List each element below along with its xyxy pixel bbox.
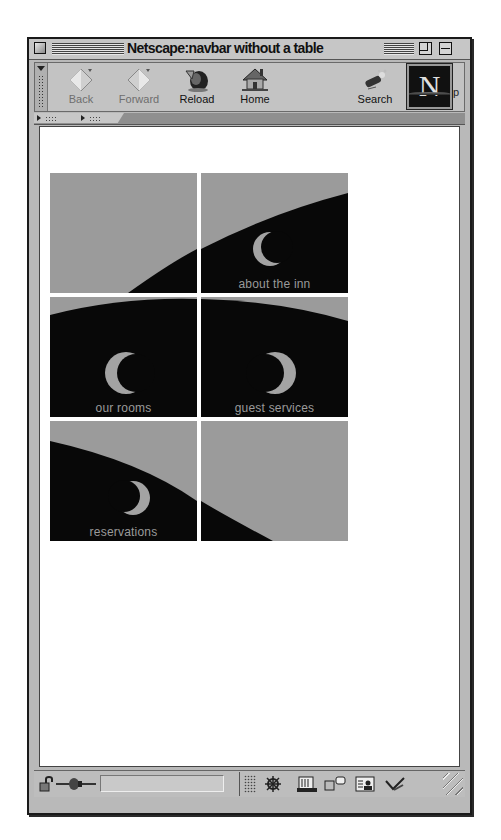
grip-dots-icon xyxy=(45,116,57,121)
grip-dots-icon xyxy=(89,116,101,121)
navbar-link-about-the-inn[interactable]: about the inn xyxy=(201,173,348,293)
navbar-link-guest-services[interactable]: guest services xyxy=(201,297,348,417)
resize-grow-box[interactable] xyxy=(443,773,463,795)
back-label: Back xyxy=(53,93,109,105)
night-sky-slice xyxy=(50,421,197,541)
night-sky-slice xyxy=(201,421,348,541)
disclosure-triangle-icon xyxy=(81,115,85,121)
close-box-button[interactable] xyxy=(34,42,46,54)
guest-services-label: guest services xyxy=(201,401,348,415)
back-button[interactable]: Back xyxy=(53,65,109,109)
address-book-icon[interactable] xyxy=(354,775,376,793)
forward-label: Forward xyxy=(111,93,167,105)
home-button[interactable]: Home xyxy=(227,65,283,109)
connection-plug-icon xyxy=(56,778,96,790)
title-bar-stripes xyxy=(52,43,124,55)
navbar-link-our-rooms[interactable]: our rooms xyxy=(50,297,197,417)
status-divider xyxy=(239,772,240,796)
crescent-moon-icon xyxy=(246,352,296,394)
navbar-tile-top-left xyxy=(50,173,197,293)
zoom-box-button[interactable] xyxy=(419,42,432,55)
crescent-moon-icon xyxy=(105,352,155,394)
search-flashlight-icon xyxy=(360,67,390,93)
night-sky-slice xyxy=(50,173,197,293)
navbar-tile-bottom-right xyxy=(201,421,348,541)
navigation-toolbar: Back Forward Reload xyxy=(34,62,465,112)
component-bar-grip-icon[interactable] xyxy=(244,775,256,793)
night-sky-slice xyxy=(201,173,348,293)
night-sky-slice xyxy=(201,297,348,417)
status-bar xyxy=(34,770,465,797)
search-button[interactable]: Search xyxy=(347,65,403,109)
image-navbar: about the inn our rooms xyxy=(50,173,348,541)
collapse-box-button[interactable] xyxy=(439,42,452,55)
forward-button[interactable]: Forward xyxy=(111,65,167,109)
forward-arrow-icon xyxy=(124,67,154,93)
toolbar-collapse-grip[interactable] xyxy=(35,63,48,111)
navigator-icon[interactable] xyxy=(262,775,284,793)
collapsed-toolbar-tab[interactable] xyxy=(72,113,124,123)
grip-dots-icon xyxy=(38,75,44,107)
security-lock-icon[interactable] xyxy=(39,776,55,792)
netscape-n-logo-icon: N xyxy=(409,69,450,103)
reload-button[interactable]: Reload xyxy=(169,65,225,109)
our-rooms-label: our rooms xyxy=(50,401,197,415)
browser-window: Netscape:navbar without a table Back For… xyxy=(27,37,472,815)
discussions-icon[interactable] xyxy=(324,775,346,793)
netscape-throbber[interactable]: N xyxy=(407,64,452,109)
home-label: Home xyxy=(227,93,283,105)
home-icon xyxy=(240,67,270,93)
reload-icon xyxy=(182,67,212,93)
collapse-triangle-icon xyxy=(37,66,45,71)
throbber-horizon xyxy=(409,92,450,95)
composer-icon[interactable] xyxy=(384,775,406,793)
about-the-inn-label: about the inn xyxy=(201,277,348,291)
window-title: Netscape:navbar without a table xyxy=(127,40,323,56)
status-text-field xyxy=(100,775,224,792)
mail-icon[interactable] xyxy=(296,775,318,793)
search-label: Search xyxy=(347,93,403,105)
title-bar[interactable]: Netscape:navbar without a table xyxy=(29,39,470,60)
reload-label: Reload xyxy=(169,93,225,105)
collapsed-toolbars-bar xyxy=(34,113,465,125)
toolbar-overflow-text: p xyxy=(453,86,459,98)
reservations-label: reservations xyxy=(50,525,197,539)
title-bar-stripes xyxy=(384,43,414,55)
night-sky-slice xyxy=(50,297,197,417)
disclosure-triangle-icon xyxy=(37,115,41,121)
page-content: about the inn our rooms xyxy=(39,126,460,767)
navbar-link-reservations[interactable]: reservations xyxy=(50,421,197,541)
back-arrow-icon xyxy=(66,67,96,93)
